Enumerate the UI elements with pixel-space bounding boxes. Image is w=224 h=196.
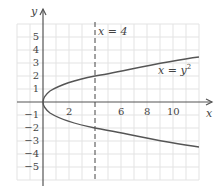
svg-text:6: 6: [118, 106, 124, 117]
svg-text:5: 5: [33, 31, 39, 42]
svg-text:10: 10: [167, 106, 180, 117]
svg-text:−2: −2: [24, 122, 39, 133]
svg-text:2: 2: [66, 106, 72, 117]
svg-text:4: 4: [33, 44, 39, 55]
svg-text:1: 1: [33, 83, 39, 94]
svg-text:−3: −3: [24, 135, 39, 146]
vline-label: x = 4: [98, 25, 127, 38]
x-axis-label: x: [206, 107, 213, 120]
y-axis-label: y: [30, 5, 38, 18]
svg-text:2: 2: [33, 70, 39, 81]
svg-text:3: 3: [33, 57, 39, 68]
svg-text:−1: −1: [24, 109, 39, 120]
parabola-chart: y x x = 4 x = y2 2 6 8 10 5 4 3 2 1 −1 −…: [0, 0, 224, 196]
svg-text:−4: −4: [24, 148, 39, 159]
curve-label: x = y2: [158, 63, 191, 77]
svg-text:8: 8: [144, 106, 150, 117]
svg-text:−5: −5: [24, 161, 39, 172]
